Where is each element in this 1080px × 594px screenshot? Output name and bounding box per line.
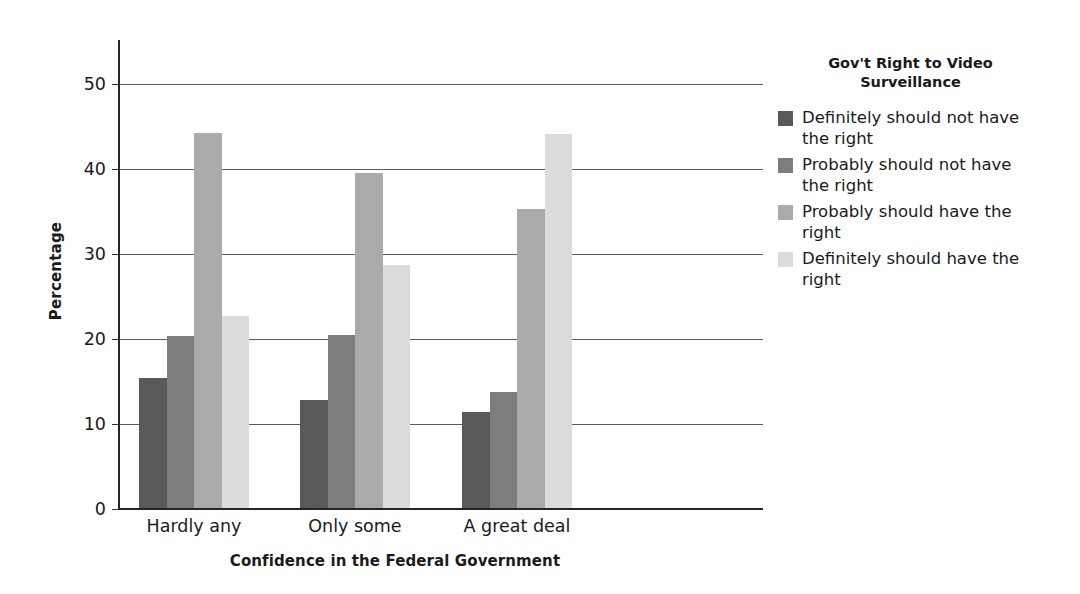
legend-item: Definitely should have the right [778, 249, 1068, 291]
legend-item: Definitely should not have the right [778, 108, 1068, 150]
legend-item-label: Probably should have the right [802, 202, 1042, 244]
legend-swatch-icon [778, 158, 793, 173]
legend-title: Gov't Right to Video Surveillance [788, 54, 1033, 92]
legend-item: Probably should have the right [778, 202, 1068, 244]
bar [194, 133, 222, 508]
bar [490, 392, 518, 508]
y-axis-tick-label: 10 [46, 414, 106, 434]
gridline [120, 84, 763, 85]
bar [167, 336, 195, 508]
y-axis-tick-label: 20 [46, 329, 106, 349]
bar [517, 209, 545, 508]
legend-item-label: Probably should not have the right [802, 155, 1042, 197]
y-axis-tick-label: 40 [46, 159, 106, 179]
legend-item-label: Definitely should not have the right [802, 108, 1042, 150]
y-axis-tick-label: 50 [46, 74, 106, 94]
bar [355, 173, 383, 508]
legend-item: Probably should not have the right [778, 155, 1068, 197]
bar-chart-figure: Percentage 01020304050 Hardly anyOnly so… [0, 0, 1080, 594]
bar [462, 412, 490, 508]
legend-swatch-icon [778, 205, 793, 220]
y-axis-line [118, 40, 120, 510]
bar [139, 378, 167, 508]
legend-item-list: Definitely should not have the rightProb… [778, 108, 1068, 291]
x-axis-title: Confidence in the Federal Government [0, 552, 790, 570]
x-axis-line [118, 508, 763, 510]
plot-area [118, 40, 763, 510]
legend-swatch-icon [778, 111, 793, 126]
legend-title-line-2: Surveillance [860, 74, 961, 90]
y-axis-tick-label: 30 [46, 244, 106, 264]
x-axis-tick-label: A great deal [417, 516, 617, 536]
bar [222, 316, 250, 508]
legend: Gov't Right to Video Surveillance Defini… [778, 54, 1068, 296]
bar [383, 265, 411, 508]
legend-swatch-icon [778, 252, 793, 267]
bar [545, 134, 573, 508]
bar [300, 400, 328, 508]
legend-item-label: Definitely should have the right [802, 249, 1042, 291]
bar [328, 335, 356, 508]
legend-title-line-1: Gov't Right to Video [828, 55, 993, 71]
